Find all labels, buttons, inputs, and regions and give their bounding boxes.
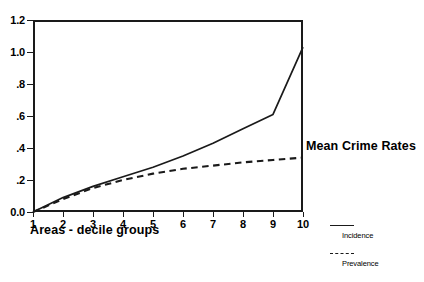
- legend-item: Prevalence: [330, 250, 420, 278]
- y-tick-label: 1.0: [10, 46, 25, 58]
- series-line-prevalence: [33, 158, 303, 212]
- x-tick-mark: [93, 212, 94, 217]
- x-axis-title: Areas - decile groups: [30, 223, 159, 237]
- x-tick-label: 7: [210, 218, 216, 230]
- plot-area: 0.0.2.4.6.81.01.2 12345678910: [33, 20, 303, 212]
- x-tick-mark: [303, 212, 304, 217]
- y-tick-label: .2: [16, 174, 25, 186]
- x-tick-mark: [63, 212, 64, 217]
- x-tick-label: 6: [180, 218, 186, 230]
- chart-legend: IncidencePrevalence: [330, 222, 420, 278]
- legend-item: Incidence: [330, 222, 420, 250]
- series-lines: [33, 20, 303, 212]
- y-tick-label: 1.2: [10, 14, 25, 26]
- x-tick-mark: [153, 212, 154, 217]
- y-tick-label: .4: [16, 142, 25, 154]
- x-tick-mark: [123, 212, 124, 217]
- x-tick-label: 9: [270, 218, 276, 230]
- x-tick-mark: [273, 212, 274, 217]
- legend-label: Incidence: [342, 231, 373, 240]
- y-tick-label: 0.0: [10, 206, 25, 218]
- legend-swatch-dashed-line-icon: [330, 253, 354, 254]
- chart-side-title: Mean Crime Rates: [306, 139, 416, 153]
- legend-label: Prevalence: [342, 259, 379, 268]
- x-tick-label: 10: [297, 218, 309, 230]
- y-tick-label: .6: [16, 110, 25, 122]
- x-tick-mark: [243, 212, 244, 217]
- legend-swatch-solid-line-icon: [330, 225, 354, 226]
- y-tick-label: .8: [16, 78, 25, 90]
- x-tick-mark: [213, 212, 214, 217]
- chart-figure: 0.0.2.4.6.81.01.2 12345678910 Areas - de…: [0, 0, 424, 282]
- series-line-incidence: [33, 47, 303, 212]
- x-tick-label: 8: [240, 218, 246, 230]
- x-tick-mark: [183, 212, 184, 217]
